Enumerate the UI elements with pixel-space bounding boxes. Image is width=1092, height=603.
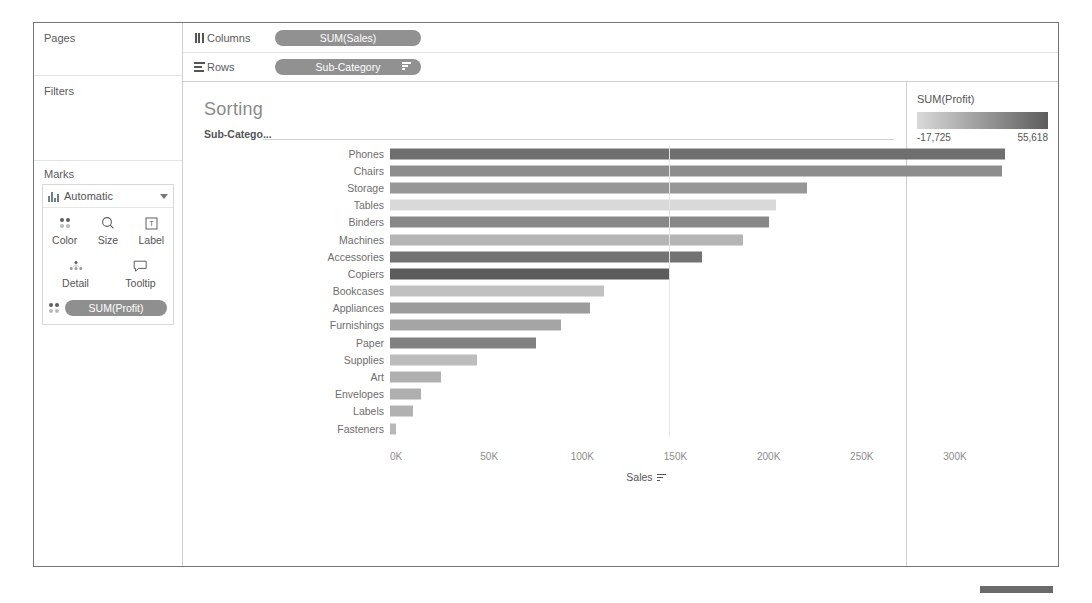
- window-scroll-strip[interactable]: [980, 586, 1053, 593]
- marks-detail-label: Detail: [43, 276, 108, 290]
- chevron-down-icon[interactable]: [160, 194, 168, 199]
- bar-row[interactable]: Binders: [183, 214, 896, 231]
- tooltip-icon: [108, 258, 173, 274]
- bar-mark[interactable]: [390, 372, 441, 383]
- bar-track: [390, 248, 896, 265]
- bar-category-label: Storage: [183, 182, 390, 194]
- rows-lines-icon: [191, 62, 207, 72]
- filters-shelf[interactable]: Filters: [34, 76, 182, 161]
- bar-category-label: Copiers: [183, 268, 390, 280]
- bar-row[interactable]: Machines: [183, 231, 896, 248]
- bar-mark[interactable]: [390, 303, 590, 314]
- bar-category-label: Appliances: [183, 302, 390, 314]
- marks-shelf-label: Marks: [44, 168, 74, 180]
- bar-mark[interactable]: [390, 165, 1002, 176]
- bar-mark-icon: [48, 191, 59, 202]
- bar-track: [390, 334, 896, 351]
- bar-category-label: Accessories: [183, 251, 390, 263]
- legend-title: SUM(Profit): [917, 93, 1048, 105]
- x-axis-tick-label: 200K: [757, 451, 780, 462]
- bar-mark[interactable]: [390, 182, 807, 193]
- pages-shelf[interactable]: Pages: [34, 23, 182, 76]
- size-icon: [86, 215, 129, 231]
- bar-row[interactable]: Supplies: [183, 351, 896, 368]
- marks-color-button[interactable]: Color: [43, 215, 86, 247]
- bar-mark[interactable]: [390, 251, 702, 262]
- bar-category-label: Tables: [183, 199, 390, 211]
- bar-category-label: Paper: [183, 337, 390, 349]
- color-dots-icon: [49, 303, 59, 313]
- bar-mark[interactable]: [390, 406, 413, 417]
- x-axis-title[interactable]: Sales: [396, 471, 896, 483]
- x-axis: 0K50K100K150K200K250K300K Sales: [396, 445, 896, 503]
- label-text-icon: T: [130, 215, 173, 231]
- bar-rows: PhonesChairsStorageTablesBindersMachines…: [183, 145, 896, 437]
- row-field-header: Sub-Catego...: [204, 128, 272, 140]
- x-axis-tick-label: 100K: [571, 451, 594, 462]
- page-title: Sorting: [183, 82, 906, 120]
- marks-buttons-row-2: Detail Tooltip: [43, 251, 173, 294]
- shelves-sidebar: Pages Filters Marks Automatic Co: [34, 23, 183, 566]
- bar-row[interactable]: Paper: [183, 334, 896, 351]
- mark-type-selector[interactable]: Automatic: [43, 185, 173, 208]
- bar-mark[interactable]: [390, 148, 1005, 159]
- bar-mark[interactable]: [390, 389, 421, 400]
- bar-mark[interactable]: [390, 286, 604, 297]
- rows-pill-text: Sub-Category: [316, 61, 381, 73]
- bar-mark[interactable]: [390, 234, 743, 245]
- bar-row[interactable]: Envelopes: [183, 386, 896, 403]
- worksheet-canvas: Sorting Sub-Catego... PhonesChairsStorag…: [183, 82, 906, 566]
- bar-track: [390, 231, 896, 248]
- bar-track: [390, 162, 896, 179]
- svg-text:T: T: [149, 219, 154, 228]
- rows-shelf[interactable]: Rows Sub-Category: [183, 52, 1058, 81]
- bar-row[interactable]: Accessories: [183, 248, 896, 265]
- bar-row[interactable]: Labels: [183, 403, 896, 420]
- rows-pill-sub-category[interactable]: Sub-Category: [275, 59, 421, 75]
- bar-row[interactable]: Furnishings: [183, 317, 896, 334]
- bar-category-label: Labels: [183, 405, 390, 417]
- marks-detail-button[interactable]: Detail: [43, 258, 108, 290]
- marks-tooltip-button[interactable]: Tooltip: [108, 258, 173, 290]
- bar-category-label: Binders: [183, 216, 390, 228]
- bar-row[interactable]: Bookcases: [183, 283, 896, 300]
- bar-row[interactable]: Fasteners: [183, 420, 896, 437]
- main-column: Columns SUM(Sales) Rows Sub-Category Sor…: [183, 23, 1058, 566]
- detail-icon-svg: [68, 260, 84, 273]
- bar-track: [390, 351, 896, 368]
- bar-category-label: Chairs: [183, 165, 390, 177]
- columns-shelf[interactable]: Columns SUM(Sales): [183, 23, 1058, 52]
- bar-row[interactable]: Copiers: [183, 265, 896, 282]
- x-axis-title-text: Sales: [626, 471, 652, 483]
- bar-mark[interactable]: [390, 337, 536, 348]
- bar-track: [390, 145, 896, 162]
- columns-pill-sum-sales[interactable]: SUM(Sales): [275, 30, 421, 46]
- bar-row[interactable]: Phones: [183, 145, 896, 162]
- x-axis-tick-label: 0K: [390, 451, 402, 462]
- x-axis-tick-label: 50K: [480, 451, 498, 462]
- legend-min-value: -17,725: [917, 132, 951, 143]
- bar-mark[interactable]: [390, 268, 669, 279]
- sort-descending-icon[interactable]: [402, 62, 411, 70]
- bar-mark[interactable]: [390, 354, 477, 365]
- color-dots-icon: [43, 215, 86, 231]
- bar-row[interactable]: Tables: [183, 197, 896, 214]
- bar-mark[interactable]: [390, 217, 769, 228]
- bar-track: [390, 265, 896, 282]
- marks-label-button[interactable]: T Label: [130, 215, 173, 247]
- marks-size-button[interactable]: Size: [86, 215, 129, 247]
- marks-color-pill[interactable]: SUM(Profit): [65, 300, 167, 316]
- bar-category-label: Envelopes: [183, 388, 390, 400]
- bar-row[interactable]: Art: [183, 368, 896, 385]
- rows-shelf-label: Rows: [207, 61, 275, 73]
- legend-scale: -17,725 55,618: [917, 132, 1048, 143]
- bar-row[interactable]: Appliances: [183, 300, 896, 317]
- bar-mark[interactable]: [390, 320, 561, 331]
- legend-gradient-bar[interactable]: [917, 112, 1048, 129]
- bar-mark[interactable]: [390, 423, 396, 434]
- bar-row[interactable]: Chairs: [183, 162, 896, 179]
- bar-row[interactable]: Storage: [183, 179, 896, 196]
- sort-descending-icon[interactable]: [657, 474, 666, 482]
- bar-mark[interactable]: [390, 200, 776, 211]
- bar-track: [390, 317, 896, 334]
